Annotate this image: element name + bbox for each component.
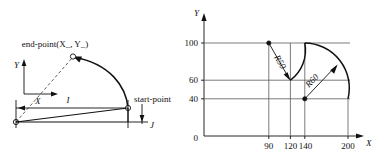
xtick-label-90: 90 [264,141,274,151]
diagram-canvas: Y X end-point(X_, Y_) start-point I [0,0,377,158]
local-axes-indicator: Y X [14,59,58,106]
left-diagram-svg: Y X end-point(X_, Y_) start-point I [0,0,186,158]
figure-arc-ij-offsets: Y X end-point(X_, Y_) start-point I [0,0,186,158]
figure-arc-radius-chart: Y X 100 60 40 [186,0,377,158]
start-point-label: start-point [134,94,171,104]
local-axis-y-label: Y [14,60,20,70]
radius-label-r50: R50 [272,52,289,71]
radius-arrowhead-r60 [330,64,337,73]
xtick-label-120: 120 [284,141,298,151]
end-point-marker [70,54,75,59]
radius-line-to-start-point [16,108,128,122]
ytick-label-100: 100 [185,38,199,48]
arc-r60-path [305,43,350,99]
right-chart-svg: Y X 100 60 40 [186,0,377,158]
j-offset-arrowhead [140,115,145,122]
xtick-label-200: 200 [341,141,355,151]
radius-line-to-end-point [16,57,73,122]
ytick-label-60: 60 [189,75,199,85]
arc-center-r50-marker [267,41,271,45]
radius-label-r60: R60 [303,72,321,90]
x-axis-arrowhead [356,133,364,138]
y-axis-arrowhead [201,13,206,21]
tool-path-arc [74,57,128,108]
j-offset-label: J [150,120,155,130]
arc-center-r60-marker [303,97,307,101]
y-axis-arrowhead [22,59,27,66]
i-offset-arrowhead [18,106,25,111]
xtick-label-140: 140 [299,141,313,151]
radius-arrowhead-r50 [284,72,291,81]
arc-r50-path [290,43,305,80]
x-axis-arrowhead [51,92,58,97]
ytick-label-0: 0 [194,133,199,143]
chart-axis-x-label: X [365,138,372,148]
i-offset-label: I [66,95,71,105]
chart-axis-y-label: Y [194,8,200,18]
ytick-label-40: 40 [189,94,199,104]
end-point-label: end-point(X_, Y_) [22,39,89,49]
